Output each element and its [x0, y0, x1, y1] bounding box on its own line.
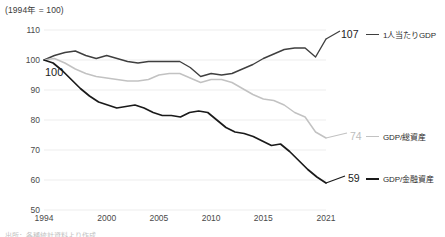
legend-label: GDP/総資産	[383, 131, 426, 142]
series-end-value: 74	[350, 130, 362, 142]
legend-entry[interactable]: GDP/金融資産	[366, 173, 434, 184]
source-note: 出所：各種統計資料より作成	[5, 230, 96, 237]
legend-swatch-icon	[366, 178, 379, 180]
series-end-value: 107	[341, 28, 359, 40]
legend-label: 1人当たりGDP	[383, 29, 436, 40]
series-end-value: 59	[348, 172, 360, 184]
legend-swatch-icon	[366, 34, 379, 35]
legend-entry[interactable]: GDP/総資産	[366, 131, 426, 142]
legend: 1071人当たりGDP74GDP/総資産59GDP/金融資産	[0, 0, 445, 237]
chart-figure: (1994年 = 100) 1101009080706050 199420002…	[0, 0, 445, 237]
legend-entry[interactable]: 1人当たりGDP	[366, 29, 436, 40]
legend-swatch-icon	[366, 136, 379, 137]
legend-label: GDP/金融資産	[383, 173, 434, 184]
